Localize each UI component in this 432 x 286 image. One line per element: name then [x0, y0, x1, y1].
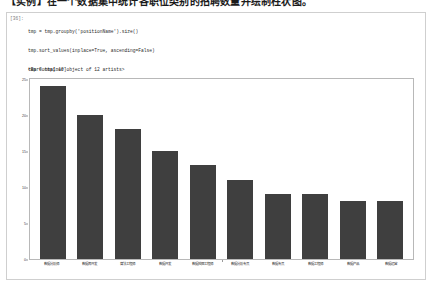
x-tick-label: 数据产品	[338, 262, 368, 274]
bar	[227, 180, 253, 259]
bar	[265, 194, 291, 259]
plot-axes	[29, 78, 414, 260]
x-axis-labels: 数据分析师数据库开发算法工程师数据开发数据挖掘工程师数据分析专员数据专员数据工程…	[29, 262, 414, 274]
x-tick-label: 数据分析师	[37, 262, 67, 274]
bar	[77, 115, 103, 259]
cell-prompt-label: [36]:	[10, 16, 24, 21]
y-tick-label: 15	[15, 150, 26, 154]
x-tick-label: 数据库开发	[75, 262, 105, 274]
y-tick-mark	[26, 116, 28, 117]
code-line: tmp.sort_values(inplace=True, ascending=…	[28, 48, 155, 54]
y-tick-label: 5	[15, 222, 26, 226]
y-tick-label: 0	[15, 258, 26, 262]
page-title: 【实例】在一个数据集中统计各职位类别的招聘数量并绘制柱状图。	[6, 0, 312, 8]
code-input-area[interactable]: [36]: tmp = tmp.groupby('positionName').…	[7, 13, 425, 63]
x-tick-mark	[222, 260, 223, 262]
x-tick-label: 数据分析专员	[225, 262, 255, 274]
y-tick-mark	[26, 260, 28, 261]
bar	[190, 165, 216, 259]
y-tick-label: 20	[15, 114, 26, 118]
bar	[340, 201, 366, 259]
x-tick-label: 算法工程师	[112, 262, 142, 274]
code-line: tmp = tmp.groupby('positionName').size()	[28, 29, 155, 35]
bar	[40, 86, 66, 259]
bar-series	[30, 79, 413, 259]
y-tick-mark	[26, 224, 28, 225]
bar	[115, 129, 141, 259]
markdown-heading-strip: 【实例】在一个数据集中统计各职位类别的招聘数量并绘制柱状图。	[0, 0, 432, 11]
x-tick-label: 数据挖掘工程师	[188, 262, 218, 274]
bar	[377, 201, 403, 259]
y-tick-mark	[26, 152, 28, 153]
x-tick-label: 数据开发	[150, 262, 180, 274]
y-tick-label: 10	[15, 186, 26, 190]
y-tick-label: 25	[15, 78, 26, 82]
bar	[302, 194, 328, 259]
matplotlib-figure: 0510152025 数据分析师数据库开发算法工程师数据开发数据挖掘工程师数据分…	[15, 73, 419, 277]
y-tick-mark	[26, 80, 28, 81]
y-tick-mark	[26, 188, 28, 189]
notebook-cell[interactable]: [36]: tmp = tmp.groupby('positionName').…	[6, 12, 426, 280]
cell-output-text: <BarContainer object of 12 artists>	[28, 67, 125, 72]
bar	[152, 151, 178, 259]
x-tick-label: 数据运营	[376, 262, 406, 274]
x-tick-label: 数据工程师	[301, 262, 331, 274]
screenshot-root: 【实例】在一个数据集中统计各职位类别的招聘数量并绘制柱状图。 [36]: tmp…	[0, 0, 432, 286]
x-tick-label: 数据专员	[263, 262, 293, 274]
